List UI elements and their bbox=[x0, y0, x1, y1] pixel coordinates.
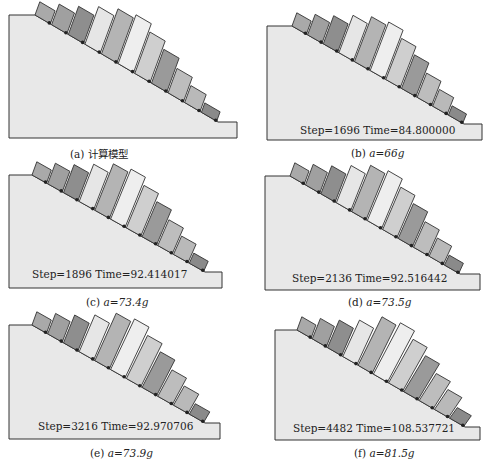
panel-caption: (b) a=66g bbox=[351, 147, 404, 159]
contact-point bbox=[446, 415, 450, 419]
contact-point bbox=[397, 85, 401, 89]
contact-point bbox=[335, 49, 339, 53]
contact-point bbox=[75, 348, 79, 352]
contact-point bbox=[214, 118, 218, 122]
contact-point bbox=[170, 402, 174, 406]
panel-caption: (d) a=73.5g bbox=[348, 296, 411, 308]
contact-point bbox=[385, 379, 389, 383]
contact-point bbox=[382, 76, 386, 80]
contact-point bbox=[97, 50, 101, 54]
contact-point bbox=[185, 411, 189, 415]
contact-point bbox=[319, 40, 323, 44]
contact-point bbox=[400, 388, 404, 392]
contact-point bbox=[366, 67, 370, 71]
panel-b: Step=1696 Time=84.800000 (b) a=66g bbox=[245, 0, 489, 160]
contact-point bbox=[351, 58, 355, 62]
contact-point bbox=[81, 41, 85, 45]
contact-point bbox=[185, 260, 189, 264]
contact-point bbox=[138, 233, 142, 237]
slope-model-diagram bbox=[0, 0, 245, 145]
contact-point bbox=[91, 207, 95, 211]
contact-point bbox=[425, 253, 429, 257]
step-time-label: Step=4482 Time=108.537721 bbox=[293, 422, 455, 434]
contact-point bbox=[44, 330, 48, 334]
contact-point bbox=[301, 181, 305, 185]
panel-f: Step=4482 Time=108.537721 (f) a=81.5g bbox=[245, 310, 489, 465]
contact-point bbox=[460, 121, 464, 125]
contact-point bbox=[379, 226, 383, 230]
contact-point bbox=[122, 224, 126, 228]
contact-point bbox=[154, 242, 158, 246]
contact-point bbox=[369, 371, 373, 375]
contact-point bbox=[354, 362, 358, 366]
contact-point bbox=[348, 208, 352, 212]
step-time-label: Step=1896 Time=92.414017 bbox=[32, 268, 187, 280]
panel-e: Step=3216 Time=92.970706 (e) a=73.9g bbox=[0, 310, 245, 465]
contact-point bbox=[131, 70, 135, 74]
contact-point bbox=[64, 31, 68, 35]
contact-point bbox=[154, 393, 158, 397]
contact-point bbox=[75, 198, 79, 202]
contact-point bbox=[324, 344, 328, 348]
contact-point bbox=[197, 109, 201, 113]
contact-point bbox=[415, 397, 419, 401]
contact-point bbox=[107, 366, 111, 370]
panel-caption: (c) a=73.4g bbox=[86, 296, 149, 308]
contact-point bbox=[339, 353, 343, 357]
contact-point bbox=[304, 31, 308, 35]
contact-point bbox=[429, 103, 433, 107]
contact-point bbox=[410, 244, 414, 248]
contact-point bbox=[430, 406, 434, 410]
contact-point bbox=[44, 180, 48, 184]
contact-point bbox=[170, 251, 174, 255]
panel-a: (a) 计算模型 bbox=[0, 0, 245, 160]
contact-point bbox=[363, 217, 367, 221]
contact-point bbox=[201, 269, 205, 273]
contact-point bbox=[413, 94, 417, 98]
contact-point bbox=[147, 80, 151, 84]
contact-point bbox=[91, 357, 95, 361]
contact-point bbox=[59, 189, 63, 193]
contact-point bbox=[461, 424, 465, 428]
step-time-label: Step=3216 Time=92.970706 bbox=[38, 420, 193, 432]
panel-caption: (a) 计算模型 bbox=[70, 146, 128, 161]
panel-d: Step=2136 Time=92.516442 (d) a=73.5g bbox=[245, 160, 489, 310]
panel-caption: (f) a=81.5g bbox=[354, 447, 415, 459]
contact-point bbox=[441, 262, 445, 266]
contact-point bbox=[181, 99, 185, 103]
contact-point bbox=[308, 335, 312, 339]
panel-caption: (e) a=73.9g bbox=[90, 447, 153, 459]
contact-point bbox=[122, 375, 126, 379]
contact-point bbox=[332, 199, 336, 203]
contact-point bbox=[48, 21, 52, 25]
contact-point bbox=[394, 235, 398, 239]
contact-point bbox=[201, 420, 205, 424]
contact-point bbox=[456, 271, 460, 275]
contact-point bbox=[164, 89, 168, 93]
panel-c: Step=1896 Time=92.414017 (c) a=73.4g bbox=[0, 160, 245, 310]
contact-point bbox=[444, 112, 448, 116]
step-time-label: Step=1696 Time=84.800000 bbox=[300, 124, 455, 136]
contact-point bbox=[138, 384, 142, 388]
contact-point bbox=[59, 339, 63, 343]
contact-point bbox=[114, 60, 118, 64]
step-time-label: Step=2136 Time=92.516442 bbox=[292, 272, 447, 284]
contact-point bbox=[107, 216, 111, 220]
contact-point bbox=[317, 190, 321, 194]
